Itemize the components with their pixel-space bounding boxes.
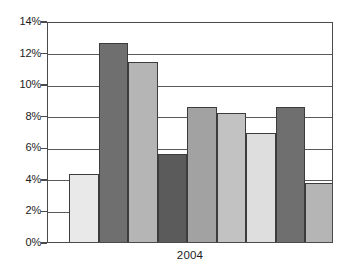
y-axis-labels: 0%2%4%6%8%10%12%14%: [0, 0, 41, 274]
bar: [128, 62, 158, 242]
y-axis-tick-label: 0%: [26, 237, 42, 248]
bar: [276, 107, 306, 242]
y-axis-tick-mark: [41, 148, 47, 149]
y-axis-tick-mark: [41, 53, 47, 54]
y-axis-tick-label: 10%: [20, 79, 41, 90]
y-axis-tick-mark: [41, 211, 47, 212]
y-axis-tick-label: 14%: [20, 16, 41, 27]
bar: [246, 133, 276, 242]
y-axis-tick-mark: [41, 116, 47, 117]
bar: [69, 174, 99, 242]
y-axis-tick-mark: [41, 21, 47, 22]
y-axis-tick-mark: [41, 84, 47, 85]
y-axis-tick-label: 2%: [26, 205, 42, 216]
y-axis-tick-label: 6%: [26, 142, 42, 153]
y-axis-tick-mark: [41, 179, 47, 180]
bar: [158, 154, 188, 242]
bar: [99, 43, 129, 242]
bar: [217, 113, 247, 242]
x-axis-label: 2004: [47, 249, 333, 261]
y-axis-tick-mark: [41, 242, 47, 243]
bar-chart: 0%2%4%6%8%10%12%14% 2004: [0, 0, 353, 274]
y-axis-tick-label: 12%: [20, 48, 41, 59]
bars-group: [48, 23, 332, 242]
y-axis-tick-label: 8%: [26, 111, 42, 122]
y-axis-tick-label: 4%: [26, 174, 42, 185]
bar: [187, 107, 217, 242]
bar: [305, 183, 333, 242]
plot-area: [47, 22, 333, 243]
